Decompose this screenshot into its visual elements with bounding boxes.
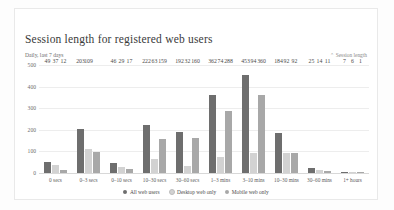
bar-slot: 37	[52, 65, 59, 173]
bar[interactable]: 46	[110, 163, 117, 173]
bar[interactable]: 288	[225, 111, 232, 173]
legend-label: All web users	[130, 189, 160, 195]
bar-slot: 92	[291, 65, 298, 173]
bar-slot: 159	[159, 65, 166, 173]
bar[interactable]: 92	[283, 153, 290, 173]
bar-slot: 94	[250, 65, 257, 173]
bar-value-label: 159	[158, 59, 167, 65]
legend-item[interactable]: Desktop web only	[169, 189, 217, 195]
bar-slot: 29	[118, 65, 125, 173]
bar-value-label: 92	[292, 59, 298, 65]
gridline: 0	[39, 173, 369, 174]
bar[interactable]: 1	[357, 172, 364, 173]
bar[interactable]: 109	[85, 149, 92, 173]
bar-slot: 109	[85, 65, 92, 173]
bar-value-label: 92	[284, 59, 290, 65]
bar-slot: 192	[176, 65, 183, 173]
bar[interactable]: 29	[118, 167, 125, 173]
bar-slot: 362	[209, 65, 216, 173]
bar[interactable]: 184	[275, 133, 282, 173]
bar-value-label: 49	[45, 59, 51, 65]
bar[interactable]: 453	[242, 75, 249, 173]
bar[interactable]: 360	[258, 95, 265, 173]
bar-slot: 12	[60, 65, 67, 173]
bar-value-label: 17	[127, 59, 133, 65]
legend-item[interactable]: All web users	[123, 189, 159, 195]
bar-slot: 49	[44, 65, 51, 173]
bar-group: 4937120 secs	[39, 65, 72, 173]
bar-value-label: 362	[208, 59, 217, 65]
bar[interactable]	[93, 152, 100, 173]
x-axis-tick: 3–10 mins	[242, 177, 264, 183]
bar[interactable]: 12	[60, 170, 67, 173]
bar-value-label: 184	[274, 59, 283, 65]
bar[interactable]: 94	[250, 153, 257, 173]
bar-slot: 46	[110, 65, 117, 173]
bar-group: 453943603–10 mins	[237, 65, 270, 173]
bar[interactable]: 362	[209, 95, 216, 173]
bar[interactable]: 17	[126, 169, 133, 173]
bar-value-label: 453	[241, 59, 250, 65]
x-axis-tick: 1–3 mins	[211, 177, 231, 183]
y-axis-tick: 0	[33, 170, 36, 176]
x-axis-tick: 0 secs	[49, 177, 62, 183]
bar[interactable]: 222	[143, 125, 150, 173]
bar-value-label: 288	[224, 59, 233, 65]
plot-area: 0100200300400500 4937120 secs2031090–3 s…	[39, 65, 369, 173]
bar[interactable]: 192	[176, 132, 183, 173]
bar-value-label: 94	[251, 59, 257, 65]
legend-swatch	[225, 190, 229, 194]
bar-slot	[93, 65, 100, 173]
bar[interactable]: 160	[192, 138, 199, 173]
bar[interactable]: 74	[217, 157, 224, 173]
bar-value-label: 29	[119, 59, 125, 65]
bar[interactable]: 7	[341, 172, 348, 174]
bar-slot: 92	[283, 65, 290, 173]
bar-slot: 184	[275, 65, 282, 173]
legend-swatch	[123, 190, 127, 194]
screenshot-root: Session length for registered web users …	[0, 0, 394, 210]
bar-value-label: 74	[218, 59, 224, 65]
bar[interactable]: 11	[324, 171, 331, 173]
chart-legend: All web usersDesktop web onlyMobile web …	[15, 189, 377, 195]
legend-item[interactable]: Mobile web only	[225, 189, 268, 195]
bar-value-label: 7	[343, 59, 346, 65]
x-axis-tick: 10–30 mins	[274, 177, 299, 183]
bar[interactable]: 92	[291, 153, 298, 173]
bar[interactable]: 49	[44, 162, 51, 173]
bar[interactable]: 6	[349, 172, 356, 173]
legend-label: Mobile web only	[232, 189, 269, 195]
bar-slot: 74	[217, 65, 224, 173]
chart-card: Session length for registered web users …	[14, 8, 378, 200]
bar[interactable]: 25	[308, 168, 315, 173]
bar-group: 1923216030–60 secs	[171, 65, 204, 173]
bar[interactable]: 203	[77, 129, 84, 173]
bar[interactable]: 159	[159, 139, 166, 173]
bar-slot: 1	[357, 65, 364, 173]
bar-group: 7611+ hours	[336, 65, 369, 173]
bar[interactable]: 63	[151, 159, 158, 173]
bar-group: 184929210–30 mins	[270, 65, 303, 173]
bar-slot: 203	[77, 65, 84, 173]
bar-value-label: 109	[84, 59, 93, 65]
bar-value-label: 12	[61, 59, 67, 65]
bar[interactable]: 37	[52, 165, 59, 173]
bar-slot: 160	[192, 65, 199, 173]
bar-group: 2226315910–30 secs	[138, 65, 171, 173]
bar-slot: 360	[258, 65, 265, 173]
x-axis-tick: 0–3 secs	[79, 177, 97, 183]
bar-slot: 288	[225, 65, 232, 173]
bar-value-label: 222	[142, 59, 151, 65]
y-axis-tick: 200	[28, 127, 36, 133]
bar[interactable]: 32	[184, 166, 191, 173]
bar-slot: 32	[184, 65, 191, 173]
bar-slot: 11	[324, 65, 331, 173]
bar[interactable]: 14	[316, 170, 323, 173]
bar-slot: 63	[151, 65, 158, 173]
y-axis-tick: 300	[28, 105, 36, 111]
x-axis-tick: 30–60 mins	[307, 177, 332, 183]
y-axis-tick: 500	[28, 62, 36, 68]
bar-value-label: 63	[152, 59, 158, 65]
bar-value-label: 14	[317, 59, 323, 65]
bar-group: 362742881–3 mins	[204, 65, 237, 173]
